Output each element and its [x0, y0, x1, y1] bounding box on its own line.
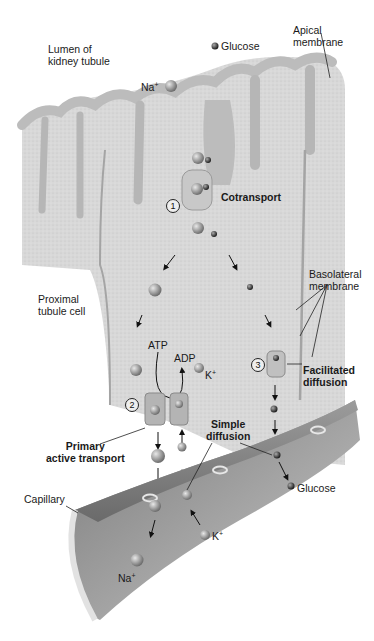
glucose-channel [267, 351, 285, 377]
primary-active-transport-label: Primary active transport [46, 440, 125, 464]
lumen-label: Lumen of kidney tubule [48, 43, 110, 67]
glucose-molecule [205, 157, 211, 163]
apical-membrane-label: Apical membrane [293, 24, 343, 48]
basolateral-membrane-label: Basolateral membrane [309, 268, 362, 292]
diagram-artwork [0, 0, 374, 641]
sodium-ion [192, 152, 204, 164]
sodium-ion [165, 80, 177, 92]
glucose-molecule [212, 43, 219, 50]
potassium-capillary-label: K+ [212, 530, 223, 542]
glucose-molecule [211, 231, 217, 237]
facilitated-diffusion-label: Facilitated diffusion [303, 364, 355, 388]
step-2-marker: 2 [125, 398, 139, 412]
glucose-top-label: Glucose [221, 40, 260, 52]
kidney-transport-diagram: Lumen of kidney tubule Glucose Apical me… [0, 0, 374, 641]
simple-diffusion-label: Simple diffusion [206, 418, 250, 442]
sodium-capillary-label: Na+ [118, 572, 136, 584]
adp-label: ADP [174, 352, 196, 364]
step-1-marker: 1 [166, 199, 180, 213]
atp-label: ATP [148, 339, 168, 351]
step-3-marker: 3 [251, 358, 265, 372]
glucose-capillary-label: Glucose [297, 482, 336, 494]
cotransport-label: Cotransport [221, 191, 281, 203]
capillary-label: Capillary [24, 493, 65, 505]
sodium-ion [192, 222, 204, 234]
proximal-tubule-cell-label: Proximal tubule cell [38, 293, 85, 317]
cotransporter-protein [182, 170, 212, 210]
sodium-top-label: Na+ [141, 81, 159, 93]
potassium-cell-label: K+ [205, 369, 216, 381]
